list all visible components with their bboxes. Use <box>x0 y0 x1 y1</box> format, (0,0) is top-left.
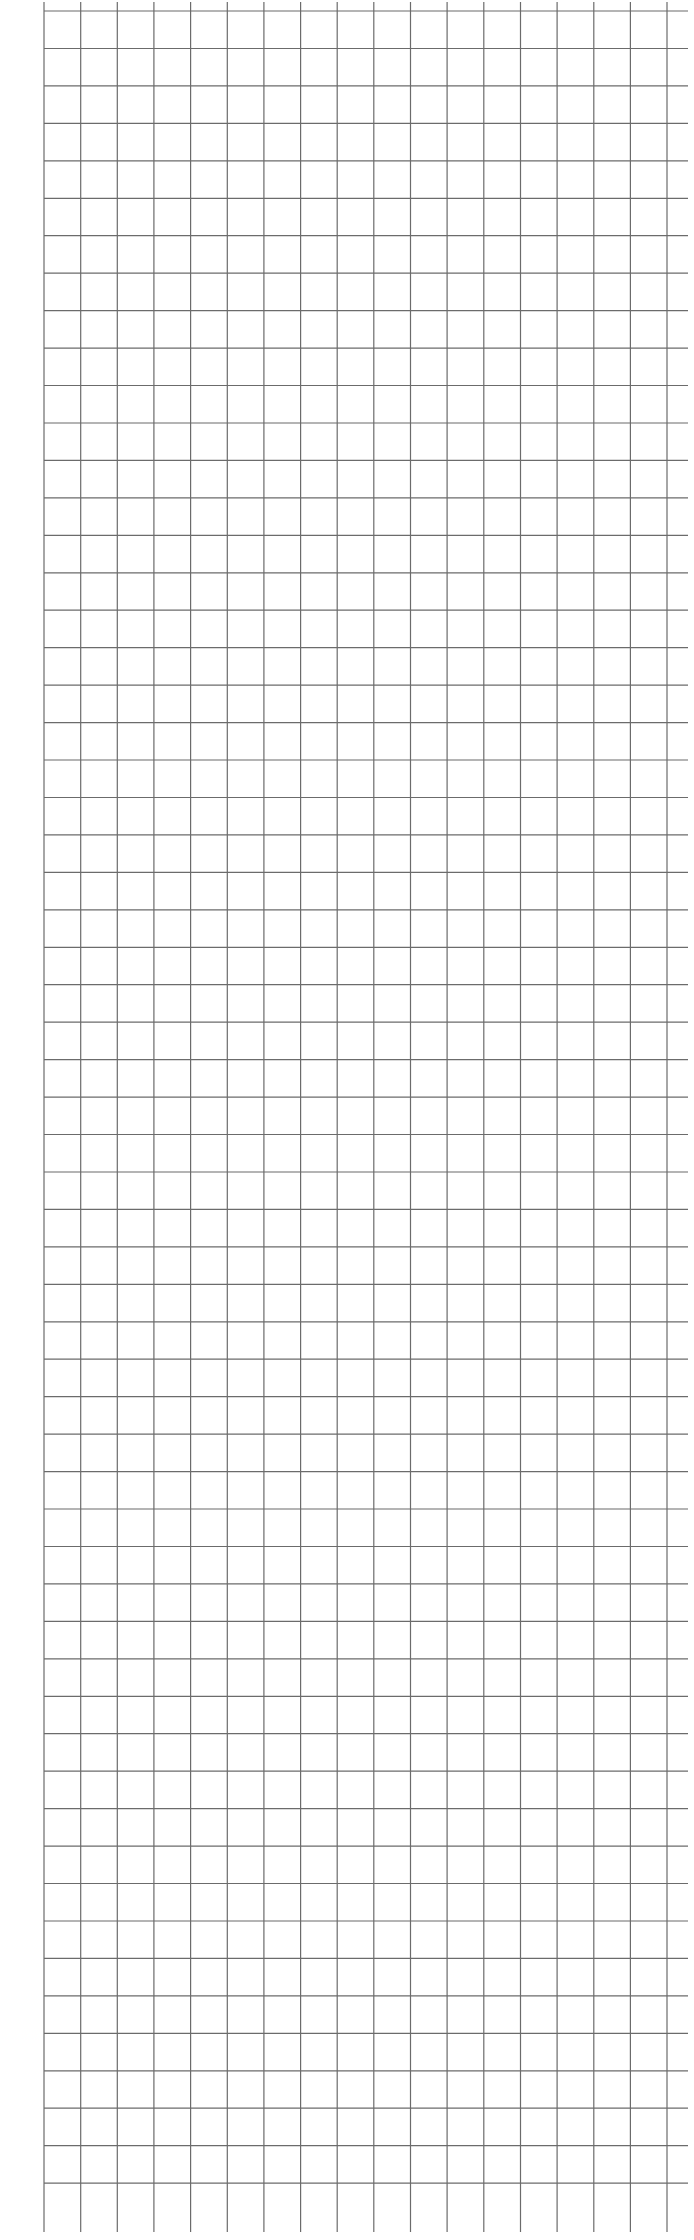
clipped-text-fragment: · <box>0 1380 4 1398</box>
clipped-text-fragment: · <box>0 282 4 300</box>
clipped-text-fragment: · <box>0 990 4 1008</box>
clipped-text-fragment: · <box>0 1128 4 1146</box>
clipped-text-fragment: | <box>0 262 4 280</box>
clipped-text-fragment: | <box>0 940 4 958</box>
clipped-text-fragment: | <box>0 1172 4 1190</box>
clipped-text-fragment: · <box>0 1074 4 1092</box>
clipped-text-fragment: · <box>0 344 4 362</box>
graph-paper-grid <box>0 0 694 2240</box>
clipped-text-fragment: · <box>0 1216 4 1234</box>
clipped-text-fragment: | <box>0 1260 4 1278</box>
clipped-text-fragment: · <box>0 1032 4 1050</box>
